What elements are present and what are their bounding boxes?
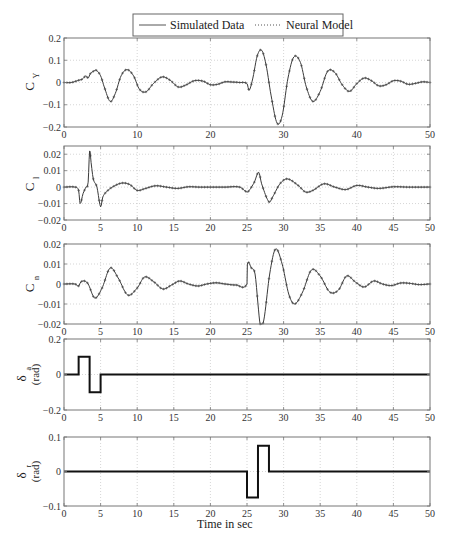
y-tick-label: 0.02 xyxy=(44,149,62,160)
x-tick-label: 30 xyxy=(279,326,289,337)
x-tick-label: 20 xyxy=(205,222,215,233)
y-axis-label-main: C xyxy=(22,284,37,293)
x-tick-label: 10 xyxy=(132,508,142,519)
x-tick-label: 10 xyxy=(132,222,142,233)
y-axis-label: Cl xyxy=(22,176,41,191)
y-axis-label-subscript: Y xyxy=(32,73,41,79)
x-tick-label: 20 xyxy=(205,129,215,140)
y-tick-label: 0 xyxy=(56,466,61,477)
y-tick-label: −0.01 xyxy=(38,299,61,310)
panel-cl: 05101520253035404550−0.02−0.0100.010.02C… xyxy=(22,146,435,233)
y-axis-label-main: δ xyxy=(14,375,29,381)
y-axis-label: CY xyxy=(22,73,41,91)
panel-dr: 05101520253035404550−0.100.1δr(rad) xyxy=(14,432,435,520)
y-tick-label: 0 xyxy=(56,77,61,88)
x-tick-label: 25 xyxy=(242,412,252,423)
x-tick-label: 35 xyxy=(315,222,325,233)
x-tick-label: 45 xyxy=(388,222,398,233)
x-tick-label: 30 xyxy=(279,129,289,140)
y-tick-label: −0.02 xyxy=(38,215,61,226)
y-axis-label: δa(rad) xyxy=(14,363,42,385)
x-tick-label: 50 xyxy=(425,508,435,519)
y-tick-label: −0.1 xyxy=(43,501,61,512)
y-tick-label: −0.02 xyxy=(38,319,61,330)
x-tick-label: 0 xyxy=(62,326,67,337)
x-tick-label: 20 xyxy=(205,326,215,337)
y-axis-label-main: δ xyxy=(14,472,29,478)
x-tick-label: 30 xyxy=(279,508,289,519)
x-tick-label: 5 xyxy=(98,222,103,233)
y-tick-label: 0 xyxy=(56,182,61,193)
panel-cy: 01020304050−0.2−0.100.10.2CY xyxy=(22,33,435,141)
y-tick-label: −0.2 xyxy=(43,122,61,133)
x-tick-label: 40 xyxy=(352,129,362,140)
y-tick-label: 0.2 xyxy=(49,33,62,44)
y-axis-label: δr(rad) xyxy=(14,460,42,482)
x-tick-label: 25 xyxy=(242,326,252,337)
x-tick-label: 50 xyxy=(425,222,435,233)
y-tick-label: 0.01 xyxy=(44,165,62,176)
y-tick-label: 0.01 xyxy=(44,259,62,270)
x-tick-label: 15 xyxy=(169,326,179,337)
x-tick-label: 10 xyxy=(132,129,142,140)
panel-cn: 05101520253035404550−0.02−0.0100.010.02C… xyxy=(22,239,435,338)
x-tick-label: 45 xyxy=(388,326,398,337)
y-tick-label: 0.1 xyxy=(49,432,62,443)
y-tick-label: 0 xyxy=(56,369,61,380)
x-tick-label: 5 xyxy=(98,508,103,519)
y-axis-label-subscript: l xyxy=(32,176,41,179)
x-tick-label: 40 xyxy=(352,326,362,337)
y-tick-label: −0.1 xyxy=(43,99,61,110)
y-axis-label-main: C xyxy=(22,183,37,192)
legend: Simulated Data Neural Model xyxy=(133,14,354,36)
x-tick-label: 40 xyxy=(352,222,362,233)
x-tick-label: 35 xyxy=(315,326,325,337)
panel-da: 05101520253035404550−0.200.2δa(rad) xyxy=(14,334,435,424)
x-tick-label: 50 xyxy=(425,412,435,423)
x-tick-label: 40 xyxy=(352,412,362,423)
x-tick-label: 0 xyxy=(62,222,67,233)
x-tick-label: 15 xyxy=(169,508,179,519)
x-tick-label: 20 xyxy=(205,412,215,423)
x-tick-label: 10 xyxy=(132,326,142,337)
x-tick-label: 40 xyxy=(352,508,362,519)
y-axis-label: Cn xyxy=(22,276,41,292)
y-tick-label: 0 xyxy=(56,279,61,290)
legend-label-neural: Neural Model xyxy=(286,18,354,32)
y-tick-label: 0.2 xyxy=(49,334,62,345)
x-tick-label: 50 xyxy=(425,326,435,337)
y-axis-unit: (rad) xyxy=(29,460,42,482)
y-axis-unit: (rad) xyxy=(29,363,42,385)
legend-label-simulated: Simulated Data xyxy=(170,18,245,32)
x-tick-label: 50 xyxy=(425,129,435,140)
x-tick-label: 45 xyxy=(388,508,398,519)
y-tick-label: 0.02 xyxy=(44,239,62,250)
x-axis-label: Time in sec xyxy=(197,517,253,531)
x-tick-label: 15 xyxy=(169,222,179,233)
x-tick-label: 45 xyxy=(388,412,398,423)
x-tick-label: 10 xyxy=(132,412,142,423)
x-tick-label: 15 xyxy=(169,412,179,423)
figure: Simulated Data Neural Model 01020304050−… xyxy=(0,0,454,548)
x-tick-label: 35 xyxy=(315,412,325,423)
x-tick-label: 0 xyxy=(62,508,67,519)
y-axis-label-main: C xyxy=(22,82,37,91)
x-tick-label: 5 xyxy=(98,412,103,423)
x-tick-label: 5 xyxy=(98,326,103,337)
x-tick-label: 35 xyxy=(315,508,325,519)
y-axis-label-subscript: n xyxy=(32,276,41,280)
x-tick-label: 30 xyxy=(279,412,289,423)
y-tick-label: −0.01 xyxy=(38,198,61,209)
x-tick-label: 0 xyxy=(62,412,67,423)
x-tick-label: 30 xyxy=(279,222,289,233)
y-tick-label: 0.1 xyxy=(49,55,62,66)
x-tick-label: 25 xyxy=(242,222,252,233)
x-tick-label: 0 xyxy=(62,129,67,140)
y-tick-label: −0.2 xyxy=(43,405,61,416)
